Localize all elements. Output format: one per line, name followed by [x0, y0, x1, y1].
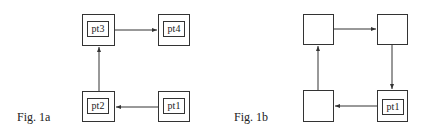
figure-caption: Fig. 1b [234, 110, 268, 125]
node-label: pt2 [87, 98, 109, 114]
node-empty-bottom-left [303, 90, 334, 122]
node-label: pt1 [382, 99, 404, 115]
node-label: pt1 [163, 98, 185, 114]
node-pt1: pt1 [158, 91, 190, 122]
figure-caption: Fig. 1a [17, 110, 50, 125]
node-pt4: pt4 [158, 14, 190, 46]
node-pt3: pt3 [82, 14, 115, 46]
node-pt2: pt2 [82, 91, 115, 122]
figure-1a: pt3 pt4 pt2 pt1 Fig. 1a [0, 0, 214, 131]
figure-1b: pt1 Fig. 1b [214, 0, 428, 131]
node-label: pt3 [87, 21, 109, 37]
node-label: pt4 [163, 21, 185, 37]
node-pt1: pt1 [377, 90, 408, 122]
node-empty-top-right [377, 14, 408, 45]
node-empty-top-left [303, 14, 334, 45]
